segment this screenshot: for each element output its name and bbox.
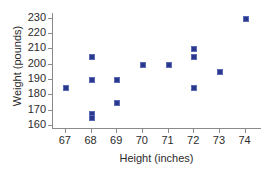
x-tick-label: 70 <box>130 135 154 146</box>
y-tick-label-text: 160 <box>20 119 46 130</box>
data-point <box>217 69 223 75</box>
x-tick-label: 68 <box>79 135 103 146</box>
y-tick-label-text: 170 <box>20 104 46 115</box>
data-point <box>114 77 120 83</box>
y-tick-label-text: 180 <box>20 88 46 99</box>
x-tick-mark <box>245 129 246 133</box>
x-tick-mark <box>193 129 194 133</box>
data-point <box>191 85 197 91</box>
data-point <box>114 100 120 106</box>
x-tick-label: 74 <box>233 135 257 146</box>
y-tick-label-text: 220 <box>20 27 46 38</box>
x-tick-label: 72 <box>181 135 205 146</box>
data-point <box>89 54 95 60</box>
x-tick-label: 69 <box>104 135 128 146</box>
data-point <box>166 62 172 68</box>
data-point <box>191 46 197 52</box>
data-point <box>243 16 249 22</box>
data-point <box>89 115 95 121</box>
y-axis-title: Weight (pounds) <box>11 6 23 126</box>
y-tick-label-text: 190 <box>20 73 46 84</box>
x-tick-label: 71 <box>156 135 180 146</box>
x-tick-mark <box>142 129 143 133</box>
x-axis-title: Height (inches) <box>52 152 261 164</box>
data-point <box>63 85 69 91</box>
x-tick-mark <box>91 129 92 133</box>
data-point <box>89 77 95 83</box>
x-tick-label: 73 <box>207 135 231 146</box>
data-point <box>140 62 146 68</box>
y-tick-label-text: 210 <box>20 42 46 53</box>
x-tick-label: 67 <box>53 135 77 146</box>
y-tick-label-text: 230 <box>20 12 46 23</box>
scatter-plot-figure: 160170180190200210220230 676869707172737… <box>0 0 268 175</box>
x-tick-mark <box>65 129 66 133</box>
x-tick-mark <box>116 129 117 133</box>
x-tick-mark <box>219 129 220 133</box>
data-point <box>191 54 197 60</box>
plot-area <box>52 13 260 128</box>
y-tick-label-text: 200 <box>20 58 46 69</box>
x-tick-mark <box>168 129 169 133</box>
x-axis-line <box>52 128 261 129</box>
